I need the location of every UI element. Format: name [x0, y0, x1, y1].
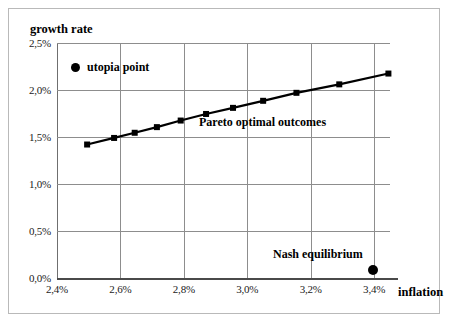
x-tick-label: 2,6% [109, 283, 131, 295]
data-point-marker [111, 135, 117, 141]
x-tick-label: 2,8% [173, 283, 195, 295]
y-axis-title: growth rate [30, 22, 93, 37]
nash-equilibrium-marker-icon [368, 265, 378, 275]
data-point-marker [336, 81, 342, 87]
y-tick-label: 0,5% [29, 225, 51, 237]
x-axis-title: inflation [398, 285, 443, 300]
y-tick-label: 1,0% [29, 178, 51, 190]
data-point-marker [260, 98, 266, 104]
x-tick-label: 3,2% [300, 283, 322, 295]
x-tick-label: 3,4% [363, 283, 385, 295]
data-point-marker [203, 111, 209, 117]
data-point-marker [385, 71, 391, 77]
plot-area: 0,0%0,5%1,0%1,5%2,0%2,5% 2,4%2,6%2,8%3,0… [57, 43, 390, 278]
x-axis-spine [57, 278, 398, 280]
y-tick-label: 1,5% [29, 131, 51, 143]
data-point-marker [154, 124, 160, 130]
data-point-marker [132, 130, 138, 136]
y-tick-label: 2,0% [29, 84, 51, 96]
data-point-marker [230, 105, 236, 111]
data-point-marker [178, 118, 184, 124]
x-tick-label: 3,0% [236, 283, 258, 295]
chart-figure: growth rate inflation 0,0%0,5%1,0%1,5%2,… [0, 0, 450, 324]
x-tick-label: 2,4% [46, 283, 68, 295]
data-point-marker [293, 90, 299, 96]
y-tick-label: 2,5% [29, 37, 51, 49]
data-point-marker [84, 142, 90, 148]
pareto-frontier-series [57, 43, 390, 278]
